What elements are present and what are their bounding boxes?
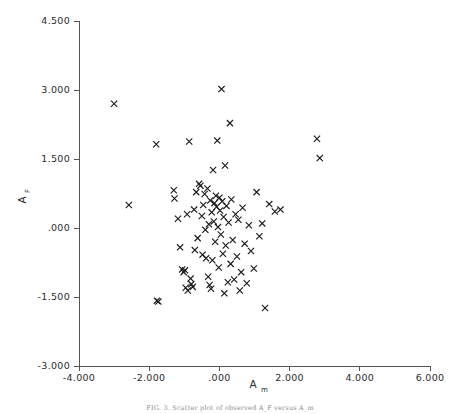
data-markers-group xyxy=(111,86,323,311)
x-axis-title-text: A xyxy=(249,378,257,390)
data-point-marker xyxy=(222,162,228,168)
data-point-marker xyxy=(215,224,221,230)
y-tick-label: -1.500 xyxy=(38,291,70,302)
data-point-marker xyxy=(272,208,278,214)
data-point-marker xyxy=(246,222,252,228)
data-point-marker xyxy=(217,207,223,213)
data-point-marker xyxy=(193,189,199,195)
data-point-marker xyxy=(227,120,233,126)
x-tick-label: -2.000 xyxy=(133,372,165,383)
data-point-marker xyxy=(234,253,240,259)
data-point-marker xyxy=(111,101,117,107)
figure-container: -3.000-1.500.0001.5003.0004.500 -4.000-2… xyxy=(0,0,460,414)
data-point-marker xyxy=(218,86,224,92)
y-tick-label: 1.500 xyxy=(41,153,70,164)
data-point-marker xyxy=(251,265,257,271)
data-point-marker xyxy=(199,213,205,219)
x-tick-label: 2.000 xyxy=(275,372,304,383)
y-tick-label: .000 xyxy=(48,222,70,233)
data-point-marker xyxy=(203,255,209,261)
data-point-marker xyxy=(266,201,272,207)
data-point-marker xyxy=(153,141,159,147)
x-tick-label: 6.000 xyxy=(416,372,445,383)
data-point-marker xyxy=(184,211,190,217)
figure-caption: FIG. 3. Scatter plot of observed A_F ver… xyxy=(0,403,460,414)
data-point-marker xyxy=(223,203,229,209)
y-tick-label: 3.000 xyxy=(41,84,70,95)
data-point-marker xyxy=(220,251,226,257)
data-point-marker xyxy=(259,220,265,226)
data-point-marker xyxy=(191,207,197,213)
data-point-marker xyxy=(239,205,245,211)
data-point-marker xyxy=(317,155,323,161)
data-point-marker xyxy=(230,237,236,243)
data-point-marker xyxy=(185,287,191,293)
data-point-marker xyxy=(192,247,198,253)
data-point-marker xyxy=(242,241,248,247)
scatter-plot: -3.000-1.500.0001.5003.0004.500 -4.000-2… xyxy=(0,0,460,414)
data-point-marker xyxy=(175,216,181,222)
data-point-marker xyxy=(200,202,206,208)
data-point-marker xyxy=(223,242,229,248)
data-point-marker xyxy=(195,235,201,241)
data-point-marker xyxy=(171,187,177,193)
data-point-marker xyxy=(126,202,132,208)
data-point-marker xyxy=(177,244,183,250)
x-tick-label: .000 xyxy=(208,372,230,383)
data-point-marker xyxy=(210,167,216,173)
x-axis-title-subscript: m xyxy=(261,386,268,394)
data-point-marker xyxy=(237,287,243,293)
data-point-marker xyxy=(188,276,194,282)
data-point-marker xyxy=(231,276,237,282)
data-point-marker xyxy=(212,239,218,245)
data-point-marker xyxy=(205,274,211,280)
data-point-marker xyxy=(256,233,262,239)
y-tick-label: 4.500 xyxy=(41,15,70,26)
y-axis-ticks: -3.000-1.500.0001.5003.0004.500 xyxy=(38,15,79,371)
y-axis-title-text: A xyxy=(16,196,28,204)
data-point-marker xyxy=(214,138,220,144)
data-point-marker xyxy=(228,196,234,202)
data-point-marker xyxy=(248,248,254,254)
data-point-marker xyxy=(244,280,250,286)
data-point-marker xyxy=(238,269,244,275)
data-point-marker xyxy=(228,261,234,267)
data-point-marker xyxy=(186,138,192,144)
data-point-marker xyxy=(314,136,320,142)
x-tick-label: 4.000 xyxy=(345,372,374,383)
y-tick-label: -3.000 xyxy=(38,360,70,371)
data-point-marker xyxy=(190,284,196,290)
data-point-marker xyxy=(262,305,268,311)
data-point-marker xyxy=(277,207,283,213)
y-axis-title: A F xyxy=(16,189,32,204)
data-point-marker xyxy=(254,189,260,195)
y-axis-title-subscript: F xyxy=(24,189,32,193)
data-point-marker xyxy=(171,195,177,201)
data-point-marker xyxy=(209,257,215,263)
x-tick-label: -4.000 xyxy=(63,372,95,383)
data-point-marker xyxy=(225,219,231,225)
data-point-marker xyxy=(218,231,224,237)
data-point-marker xyxy=(216,264,222,270)
axes-group: -3.000-1.500.0001.5003.0004.500 -4.000-2… xyxy=(38,15,445,383)
data-point-marker xyxy=(221,290,227,296)
x-axis-title: A m xyxy=(249,378,268,394)
data-point-marker xyxy=(202,227,208,233)
data-point-marker xyxy=(197,183,203,189)
data-point-marker xyxy=(225,279,231,285)
